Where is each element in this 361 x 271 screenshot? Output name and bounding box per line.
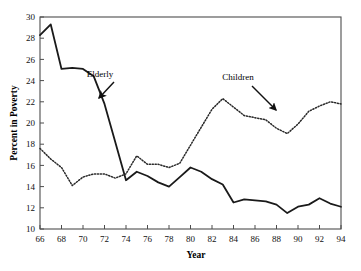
x-tick-label: 88: [272, 234, 282, 244]
y-tick-label: 28: [26, 33, 36, 43]
x-tick-label: 74: [122, 234, 132, 244]
x-tick-label: 92: [315, 234, 324, 244]
poverty-rate-figure: 1012141618202224262830 66687072747678808…: [0, 0, 361, 271]
x-tick-label: 80: [186, 234, 196, 244]
x-tick-label: 94: [337, 234, 347, 244]
x-axis-title: Year: [187, 250, 207, 260]
y-tick-label: 10: [26, 224, 36, 234]
x-tick-label: 90: [294, 234, 304, 244]
y-tick-label: 20: [26, 118, 36, 128]
y-tick-label: 24: [26, 76, 36, 86]
y-tick-label: 14: [26, 182, 36, 192]
annotation-label: Children: [222, 72, 254, 82]
x-tick-label: 82: [208, 234, 217, 244]
x-tick-label: 84: [229, 234, 239, 244]
line-chart: 1012141618202224262830 66687072747678808…: [0, 0, 361, 271]
y-tick-label: 18: [26, 139, 36, 149]
annotation-label: Elderly: [87, 69, 114, 79]
x-tick-label: 78: [165, 234, 175, 244]
y-tick-label: 30: [26, 12, 36, 22]
y-tick-label: 22: [26, 97, 35, 107]
x-axis-tick-labels: 666870727476788082848688909294: [36, 234, 347, 244]
y-tick-label: 26: [26, 55, 36, 65]
y-tick-label: 12: [26, 203, 35, 213]
x-tick-label: 66: [36, 234, 46, 244]
x-tick-label: 86: [251, 234, 261, 244]
x-tick-label: 68: [57, 234, 67, 244]
x-tick-label: 72: [100, 234, 109, 244]
y-axis-title: Percent in Poverty: [9, 85, 19, 161]
x-tick-label: 70: [79, 234, 89, 244]
y-tick-label: 16: [26, 161, 36, 171]
x-tick-label: 76: [143, 234, 153, 244]
